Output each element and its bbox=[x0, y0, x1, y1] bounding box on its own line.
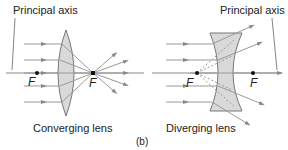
focal-point-right bbox=[91, 71, 95, 75]
diverging-lens-caption: Diverging lens bbox=[166, 122, 236, 134]
figure-label: (b) bbox=[136, 136, 148, 147]
principal-axis-label-left: Principal axis bbox=[13, 4, 78, 16]
converging-lens-diagram bbox=[6, 18, 144, 116]
focal-point-right bbox=[251, 71, 255, 75]
diverging-lens-diagram bbox=[152, 18, 282, 124]
focal-label-div-right: F bbox=[250, 76, 257, 90]
principal-axis-label-right: Principal axis bbox=[220, 4, 285, 16]
converging-lens-caption: Converging lens bbox=[33, 122, 113, 134]
diverging-lens-shape bbox=[210, 33, 242, 111]
focal-point-left bbox=[35, 71, 39, 75]
focal-label-conv-right: F bbox=[89, 76, 96, 90]
focal-label-div-left: F bbox=[186, 76, 193, 90]
focal-label-conv-left: F bbox=[28, 75, 35, 89]
focal-point-left bbox=[195, 71, 199, 75]
